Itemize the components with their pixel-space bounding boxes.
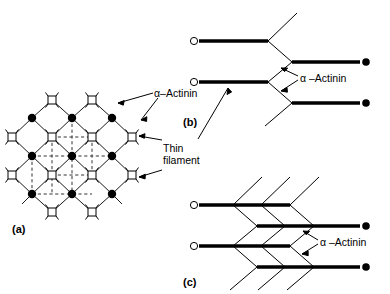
alpha-actinin-label-b: α –Actinin bbox=[300, 72, 347, 84]
alpha-actinin-label-a: α–Actinin bbox=[154, 87, 198, 99]
panel-label-b: (b) bbox=[183, 116, 197, 128]
figure-canvas: α–Actinin Thin filament α –Actinin α –Ac… bbox=[0, 0, 390, 294]
panel-label-c: (c) bbox=[183, 276, 197, 288]
thin-filament-label-line2: filament bbox=[163, 154, 200, 166]
thin-filament-label-line1: Thin bbox=[163, 142, 184, 154]
panel-label-a: (a) bbox=[12, 223, 26, 235]
alpha-actinin-label-c: α –Actinin bbox=[320, 236, 367, 248]
